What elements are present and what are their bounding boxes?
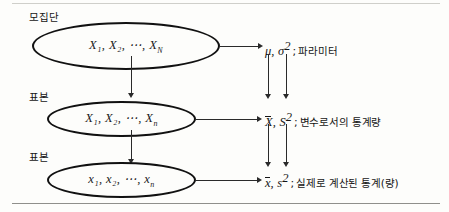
sample-variable-members: X₁, X₂, ⋯, X <box>85 111 153 125</box>
top-rule <box>12 3 440 4</box>
arrow-parameter-to-statistic-head-2 <box>283 94 289 99</box>
arrow-statistic-to-realized-line-2 <box>286 124 287 164</box>
sample-realized-size-subscript: n <box>150 180 154 189</box>
statistic-variable-annotation: X, S2;변수로서의 통계량 <box>265 110 381 130</box>
arrow-realized-to-statistic-head <box>257 177 262 183</box>
x-bar-lower-symbol: x <box>265 176 271 191</box>
arrow-population-to-sample-head <box>128 93 134 98</box>
statistic-realized-annotation: x, s2;실제로 계산된 통계(량) <box>265 171 398 191</box>
population-ellipse-text: X₁, X₂, ⋯, XN <box>34 37 218 55</box>
statistic-variable-description: 변수로서의 통계량 <box>300 116 382 128</box>
sample-variable-ellipse-text: X₁, X₂, ⋯, Xn <box>49 110 194 128</box>
statistics-diagram: 모집단 X₁, X₂, ⋯, XN μ, σ2;파라미터 표본 X₁, X₂, … <box>0 0 449 212</box>
sample-realized-members: x₁, x₂, ⋯, x <box>88 172 150 186</box>
arrow-sample-to-statistic-head <box>257 116 262 122</box>
arrow-parameter-to-statistic-head-1 <box>265 94 271 99</box>
population-size-subscript: N <box>157 46 163 55</box>
population-ellipse: X₁, X₂, ⋯, XN <box>32 22 220 70</box>
sample-variable-ellipse: X₁, X₂, ⋯, Xn <box>47 101 196 137</box>
arrow-realized-to-statistic-line <box>196 180 258 181</box>
arrow-sample-to-statistic-line <box>196 119 258 120</box>
arrow-parameter-to-statistic-line-1 <box>268 54 269 96</box>
arrow-statistic-to-realized-head-1 <box>265 162 271 167</box>
sample-realized-ellipse-text: x₁, x₂, ⋯, xn <box>49 171 194 189</box>
statistic-realized-description: 실제로 계산된 통계(량) <box>296 177 398 189</box>
arrow-sample-to-realized-line <box>131 130 132 162</box>
level-label-sample-variable: 표본 <box>29 89 49 104</box>
arrow-parameter-to-statistic-line-2 <box>286 54 287 96</box>
statistic-variable-separator: ; <box>292 116 300 129</box>
level-label-sample-realized: 표본 <box>29 149 49 164</box>
arrow-statistic-to-realized-head-2 <box>283 162 289 167</box>
s-squared-exponent: 2 <box>286 110 292 124</box>
arrow-population-to-sample-line <box>131 56 132 95</box>
parameter-annotation: μ, σ2;파라미터 <box>265 39 337 59</box>
arrow-population-to-parameter-line <box>220 46 259 47</box>
sample-variable-size-subscript: n <box>153 119 157 128</box>
statistic-realized-comma: , <box>271 176 274 190</box>
arrow-statistic-to-realized-line-1 <box>268 124 269 164</box>
statistic-variable-comma: , <box>273 115 276 129</box>
population-members: X₁, X₂, ⋯, X <box>89 38 157 52</box>
bottom-rule <box>12 203 440 204</box>
level-label-population: 모집단 <box>29 9 58 24</box>
arrow-population-to-parameter-head <box>258 43 263 49</box>
parameter-comma: , <box>271 44 274 58</box>
sample-realized-ellipse: x₁, x₂, ⋯, xn <box>47 162 196 198</box>
parameter-description: 파라미터 <box>298 45 337 57</box>
